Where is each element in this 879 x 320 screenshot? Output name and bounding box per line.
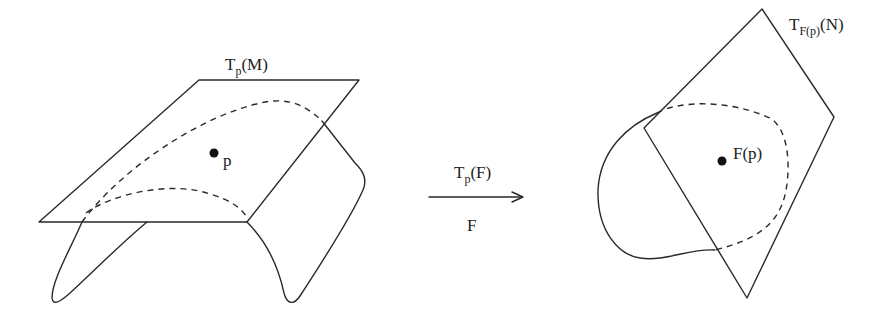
point-fp-label: F(p) [733, 144, 762, 163]
hidden-surface-curve-upper [82, 101, 322, 222]
surface-curve-visible [598, 113, 715, 259]
tangent-plane-tpm [39, 80, 359, 222]
manifold-m: p Tp(M) [39, 55, 365, 302]
tangent-plane-tpm-label: Tp(M) [225, 55, 268, 78]
arrow-top-label: Tp(F) [454, 163, 491, 186]
tangent-plane-tfpn-label: TF(p)(N) [789, 15, 844, 38]
hidden-surface-curve-lower [86, 188, 247, 218]
arrow-bottom-label: F [467, 216, 476, 235]
surface-curve-hidden [657, 104, 788, 250]
map-arrow: Tp(F) F [429, 163, 523, 235]
manifold-n: F(p) TF(p)(N) [598, 9, 844, 298]
point-p [210, 149, 219, 158]
tangent-map-diagram: p Tp(M) Tp(F) F F(p) TF(p)(N) [0, 0, 879, 320]
point-fp [718, 157, 727, 166]
surface-left-fin [52, 222, 147, 302]
point-p-label: p [223, 151, 232, 170]
